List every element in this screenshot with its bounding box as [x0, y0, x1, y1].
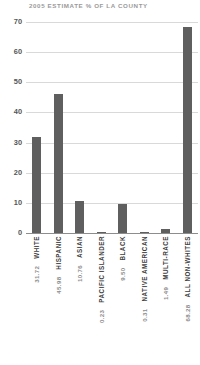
gridline — [26, 82, 198, 83]
y-axis-tick-label: 40 — [0, 108, 22, 115]
y-axis-tick-label: 30 — [0, 139, 22, 146]
x-axis-value-label: 0.31 — [141, 309, 148, 322]
x-axis-category-label: PACIFIC ISLANDER — [98, 236, 105, 303]
bar-chart: 2005 ESTIMATE % OF LA COUNTY 01020304050… — [0, 0, 200, 365]
x-axis-value-label: 45.98 — [55, 277, 62, 294]
plot-area — [26, 22, 198, 233]
x-axis-value-label: 1.49 — [162, 287, 169, 300]
y-axis-tick-label: 20 — [0, 169, 22, 176]
gridline — [26, 52, 198, 53]
x-axis-label-group: WHITE31.72 — [31, 236, 42, 362]
x-axis-label-group: PACIFIC ISLANDER0.23 — [96, 236, 107, 362]
x-axis-category-label: MULTI-RACE — [162, 236, 169, 280]
x-axis-label-group: MULTI-RACE1.49 — [160, 236, 171, 362]
y-axis-tick-label: 50 — [0, 78, 22, 85]
gridline — [26, 22, 198, 23]
x-axis-category-label: ASIAN — [76, 236, 83, 258]
bar — [183, 27, 192, 233]
gridline — [26, 143, 198, 144]
x-axis-value-label: 9.50 — [119, 268, 126, 281]
bar — [118, 204, 127, 233]
y-axis-tick-label: 0 — [0, 229, 22, 236]
x-axis-label-group: HISPANIC45.98 — [53, 236, 64, 362]
x-axis-category-label: HISPANIC — [55, 236, 62, 270]
x-axis-value-label: 31.72 — [33, 266, 40, 283]
chart-title: 2005 ESTIMATE % OF LA COUNTY — [29, 2, 148, 9]
x-axis-category-label: ALL NON-WHITES — [184, 236, 191, 297]
gridline — [26, 203, 198, 204]
x-axis-category-label: NATIVE AMERICAN — [141, 236, 148, 302]
gridline — [26, 173, 198, 174]
bar — [75, 201, 84, 233]
y-axis-tick-label: 60 — [0, 48, 22, 55]
x-axis-line — [26, 233, 198, 234]
y-axis-tick-label: 10 — [0, 199, 22, 206]
y-axis-tick-label: 70 — [0, 18, 22, 25]
x-axis-value-label: 0.23 — [98, 310, 105, 323]
x-axis-label-group: NATIVE AMERICAN0.31 — [139, 236, 150, 362]
gridline — [26, 112, 198, 113]
x-axis-category-labels: WHITE31.72HISPANIC45.98ASIAN10.76PACIFIC… — [26, 236, 198, 365]
x-axis-label-group: BLACK9.50 — [117, 236, 128, 362]
x-axis-value-label: 68.28 — [184, 304, 191, 321]
bar — [54, 94, 63, 233]
x-axis-category-label: WHITE — [33, 236, 40, 259]
x-axis-label-group: ALL NON-WHITES68.28 — [182, 236, 193, 362]
x-axis-value-label: 10.76 — [76, 265, 83, 282]
x-axis-category-label: BLACK — [119, 236, 126, 261]
bar — [32, 137, 41, 233]
x-axis-label-group: ASIAN10.76 — [74, 236, 85, 362]
